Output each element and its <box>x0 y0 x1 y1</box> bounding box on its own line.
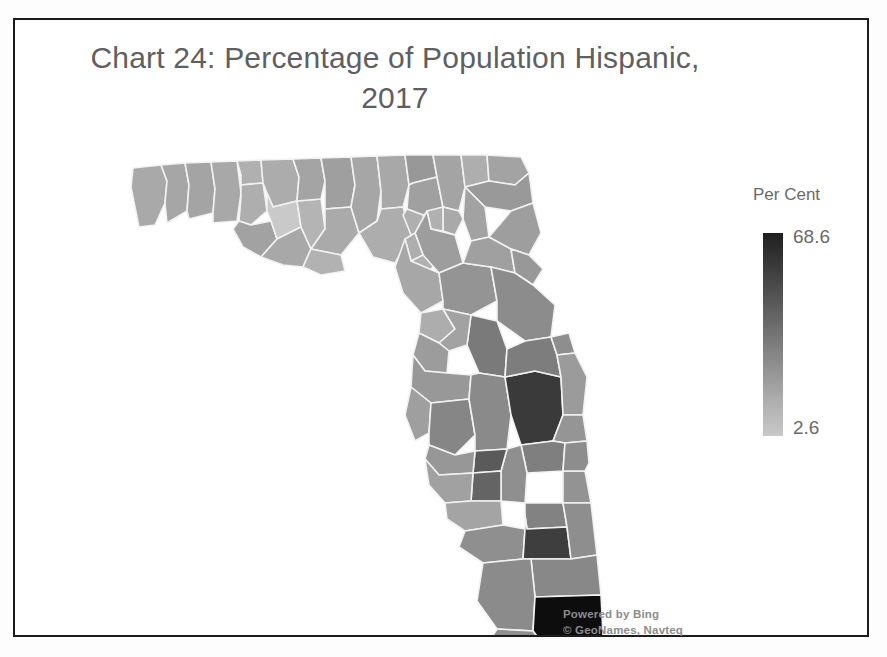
county-martin[interactable] <box>563 471 591 503</box>
legend-min-value: 2.6 <box>793 417 819 439</box>
chart-frame: Chart 24: Percentage of Population Hispa… <box>13 18 869 637</box>
county-hardee[interactable] <box>473 449 507 473</box>
legend-title: Per Cent <box>753 185 820 205</box>
screenshot-page: Chart 24: Percentage of Population Hispa… <box>0 0 887 657</box>
county-leon[interactable] <box>321 157 355 209</box>
county-collier[interactable] <box>477 559 535 631</box>
florida-county-map-svg[interactable] <box>15 115 735 635</box>
county-lee[interactable] <box>459 525 525 563</box>
county-broward[interactable] <box>531 555 601 597</box>
chart-inner-canvas: Chart 24: Percentage of Population Hispa… <box>15 20 867 635</box>
legend-gradient-bar <box>763 233 783 436</box>
county-polk[interactable] <box>469 373 511 451</box>
county-escambia[interactable] <box>131 165 167 227</box>
attribution-line-2: © GeoNames, Navteq <box>563 622 773 638</box>
county-madison[interactable] <box>377 155 409 209</box>
county-holmes[interactable] <box>237 160 263 185</box>
county-walton[interactable] <box>211 161 241 223</box>
map-legend: Per Cent 68.6 2.6 <box>745 170 865 460</box>
county-okeechobee[interactable] <box>521 441 565 473</box>
county-marion[interactable] <box>439 263 497 315</box>
map-attribution: Powered by Bing © GeoNames, Navteq <box>563 606 773 638</box>
county-hillsborough[interactable] <box>429 399 475 455</box>
page-title: Chart 24: Percentage of Population Hispa… <box>45 38 745 118</box>
county-okaloosa[interactable] <box>185 162 215 219</box>
attribution-line-1: Powered by Bing <box>563 606 773 622</box>
county-desoto[interactable] <box>471 471 501 501</box>
county-washington[interactable] <box>239 183 267 225</box>
county-st-lucie[interactable] <box>563 441 589 471</box>
legend-max-value: 68.6 <box>793 226 830 248</box>
county-glades[interactable] <box>525 503 567 529</box>
choropleth-map[interactable] <box>15 115 735 635</box>
county-osceola[interactable] <box>505 371 563 445</box>
county-santa-rosa[interactable] <box>161 163 189 223</box>
county-bradford[interactable] <box>443 207 463 235</box>
